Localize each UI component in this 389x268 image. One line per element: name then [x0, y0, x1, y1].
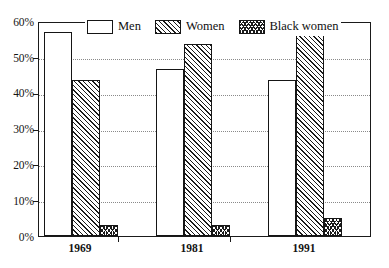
y-axis-label-30: 30% [0, 124, 34, 136]
bar-black-women-1969 [100, 225, 118, 236]
bar-men-1991 [268, 80, 296, 236]
y-axis-label-40: 40% [0, 88, 34, 100]
bar-women-1991 [296, 35, 324, 236]
bar-women-1981 [184, 44, 212, 236]
y-axis-label-60: 60% [0, 17, 34, 29]
x-axis-label-1991: 1991 [274, 243, 334, 255]
bar-men-1981 [156, 69, 184, 236]
bar-men-1969 [44, 32, 72, 236]
legend-label-black-women: Black women [270, 20, 339, 33]
legend-swatch-black-women-icon [239, 20, 265, 34]
y-axis-label-50: 50% [0, 53, 34, 65]
legend-entry-black-women: Black women [239, 20, 339, 34]
y-axis-label-0: 0% [0, 232, 34, 244]
x-axis-label-1969: 1969 [50, 243, 110, 255]
chart-legend: Men Women Black women [85, 17, 341, 36]
y-axis-label-20: 20% [0, 160, 34, 172]
legend-entry-women: Women [155, 20, 225, 34]
bar-women-1969 [72, 80, 100, 236]
legend-label-men: Men [118, 20, 141, 33]
bar-black-women-1981 [212, 225, 230, 236]
legend-swatch-men-icon [87, 20, 113, 34]
legend-swatch-women-icon [155, 20, 181, 34]
legend-entry-men: Men [87, 20, 141, 34]
bar-black-women-1991 [324, 218, 342, 236]
legend-label-women: Women [186, 20, 225, 33]
y-axis-label-10: 10% [0, 196, 34, 208]
plot-area [38, 22, 371, 237]
plot-inner [39, 23, 370, 236]
x-axis-label-1981: 1981 [162, 243, 222, 255]
x-axis-tick-1981 [230, 237, 231, 242]
bar-chart: 60% 50% 40% 30% 20% 10% 0% [0, 0, 389, 268]
x-axis-tick-1969 [118, 237, 119, 242]
